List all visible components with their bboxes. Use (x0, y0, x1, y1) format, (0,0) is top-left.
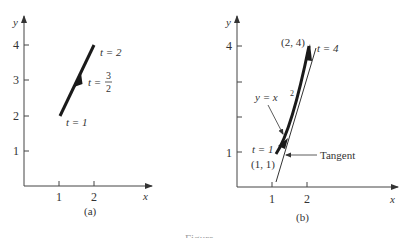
x-axis-label: x (142, 190, 148, 202)
x-tick-1: 1 (56, 190, 62, 204)
figure-caption: Figure (185, 232, 214, 238)
t-end-label: t = 4 (317, 42, 339, 54)
y-tick-3: 3 (13, 73, 19, 87)
t-mid-denominator: 2 (106, 83, 111, 94)
curve-exponent: 2 (290, 89, 294, 98)
point-end-label: (2, 4) (281, 36, 305, 49)
y-axis-label: y (225, 16, 231, 28)
t-mid-numerator: 3 (106, 70, 111, 81)
x-axis-label: x (389, 193, 395, 205)
parabola-curve (276, 46, 309, 154)
tangent-label: Tangent (320, 149, 355, 161)
y-tick-1: 1 (226, 146, 232, 160)
point-start-label: (1, 1) (251, 158, 275, 171)
x-tick-2: 2 (91, 190, 97, 204)
y-tick-4: 4 (13, 38, 19, 52)
y-axis-label: y (12, 16, 18, 28)
y-tick-4: 4 (226, 39, 232, 53)
curve-pointer (268, 105, 283, 134)
y-tick-2: 2 (13, 109, 19, 123)
panel-b: y x 4 1 1 2 (2, 4) t = 4 y = x 2 t = 1 (… (225, 16, 398, 224)
curve-label: y = x (254, 91, 278, 103)
x-tick-2: 2 (304, 192, 310, 206)
panel-b-label: (b) (296, 211, 309, 224)
figure: y x 4 3 2 1 1 2 t = 1 t = 3 2 t = 2 (a) … (0, 0, 410, 238)
t-mid-label: t = (88, 76, 101, 88)
t-start-label: t = 1 (252, 143, 273, 155)
t-end-label: t = 2 (100, 46, 122, 58)
x-tick-1: 1 (269, 192, 275, 206)
panel-a-label: (a) (84, 205, 97, 218)
panel-a: y x 4 3 2 1 1 2 t = 1 t = 3 2 t = 2 (a) (12, 16, 152, 218)
y-tick-1: 1 (13, 144, 19, 158)
tangent-line (276, 48, 316, 182)
t-start-label: t = 1 (66, 116, 87, 128)
